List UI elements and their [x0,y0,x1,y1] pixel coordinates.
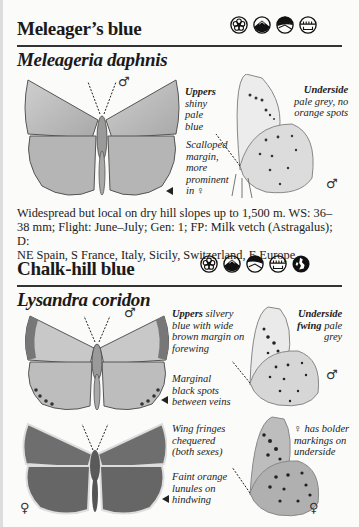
caption-line: underside [294,446,335,457]
male-symbol-1b: ♂ [326,176,338,191]
grassland-fence-icon [299,16,317,34]
pointer-arrow-icon [166,187,173,195]
caption-line: orange spots [294,107,348,118]
british-isles-icon [292,255,310,273]
caption-underside-1: Underside pale grey, no orange spots [294,84,348,119]
common-name-2: Chalk-hill blue [17,258,134,280]
caption-line: in ♀ [186,185,205,196]
caption-line: blue with wide [172,320,233,331]
caption-line: chequered [172,435,215,446]
caption-line: ♀ has bolder [294,423,349,434]
caption-line: between veins [172,396,231,407]
caption-line: pale [185,109,203,120]
mountain-icon [253,16,271,34]
grassland-fence-icon [269,255,287,273]
butterfly-upperside-male-illustration-1 [22,78,182,200]
butterfly-upperside-male-illustration-2 [22,312,172,412]
caption-line: Marginal [172,373,211,384]
latin-name-1: Meleageria daphnis [17,49,167,71]
caption-line: lunules on [172,483,215,494]
male-symbol-1a: ♂ [118,74,130,89]
common-name-1: Meleager’s blue [17,18,141,40]
flower-meadow-icon [200,255,218,273]
caption-line: Faint orange [172,471,227,482]
caption-underside-bold: Underside [304,84,348,95]
caption-marginal-spots: Marginal black spots between veins [172,373,231,408]
female-symbol-2a: ♀ [20,500,30,515]
caption-line: markings on [294,435,346,446]
habitat-icons-2 [200,255,310,273]
female-symbol-2b: ♀ [309,500,319,515]
hill-slope-icon [276,16,294,34]
caption-underside-bold: Underside [298,308,342,319]
caption-line: grey [324,331,342,342]
caption-fwing-bold: fwing [297,320,322,331]
title-rule-1 [17,45,342,47]
caption-line: pale grey, no [294,96,348,107]
caption-line: pale [322,320,343,331]
habitat-icons-1 [230,16,317,34]
caption-line: forewing [172,343,209,354]
caption-line: hindwing [172,494,211,505]
caption-wing-fringes: Wing fringes chequered (both sexes) [172,423,225,458]
mountain-icon [223,255,241,273]
hill-slope-icon [246,255,264,273]
caption-line: (both sexes) [172,446,222,457]
caption-underside-2: Underside fwing pale grey [297,308,342,343]
caption-line: black spots [172,385,219,396]
butterfly-upperside-female-illustration [22,420,167,518]
pointer-arrow-icon [161,396,168,404]
page-edge [0,0,3,527]
caption-line: shiny [185,98,207,109]
species-description-1: Widespread but local on dry hill slopes … [17,206,347,262]
caption-uppers-bold: Uppers [172,308,203,319]
caption-orange-lunules: Faint orange lunules on hindwing [172,471,227,506]
pointer-arrow-icon [162,495,169,503]
caption-line: Wing fringes [172,423,225,434]
description-line: Widespread but local on dry hill slopes … [17,206,347,220]
caption-line: blue [185,121,203,132]
flower-meadow-icon [230,16,248,34]
male-symbol-2a: ♂ [124,305,136,320]
caption-female-bolder: ♀ has bolder markings on underside [294,423,349,458]
description-line: 38 mm; Flight: June–July; Gen: 1; FP: Mi… [17,220,347,248]
title-rule-2 [17,285,342,287]
caption-line: more [186,162,207,173]
male-symbol-2b: ♂ [326,367,338,382]
